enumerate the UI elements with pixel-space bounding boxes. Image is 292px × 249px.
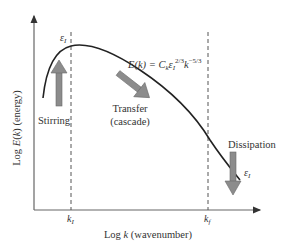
peak-epsilon-label: εI bbox=[60, 32, 67, 45]
stirring-label: Stirring bbox=[38, 115, 71, 126]
x-axis-label: Log k (wavenumber) bbox=[104, 229, 193, 241]
transfer-arrow-icon bbox=[112, 66, 155, 105]
x-tick-kf: kf bbox=[204, 213, 211, 226]
cascade-label: (cascade) bbox=[110, 116, 150, 128]
dissipation-label: Dissipation bbox=[228, 139, 277, 150]
x-tick-kI: kI bbox=[67, 213, 74, 226]
dissipation-arrow-icon bbox=[225, 152, 241, 195]
y-axis-label: Log E(k) (energy) bbox=[11, 90, 23, 166]
dissipation-epsilon-label: εI bbox=[244, 167, 251, 180]
transfer-label: Transfer bbox=[112, 103, 148, 114]
stirring-arrow-icon bbox=[51, 60, 67, 106]
energy-spectrum-diagram: Log E(k) (energy) Log k (wavenumber) kI … bbox=[0, 0, 292, 249]
kolmogorov-equation: E(k) = CkεI2/3k−5/3 bbox=[127, 57, 202, 72]
